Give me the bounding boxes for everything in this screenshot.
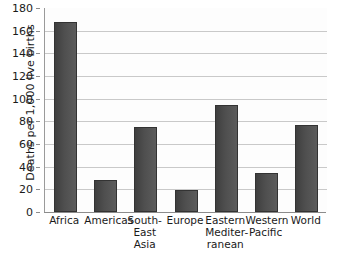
bar [94,180,117,212]
y-tick-label: 120 [12,70,33,83]
y-tick-label: 100 [12,92,33,105]
y-tick-mark [36,167,40,168]
y-tick-label: 180 [12,2,33,15]
y-tick-label: 0 [26,206,33,219]
y-tick-label: 160 [12,24,33,37]
x-tick-label: South- East Asia [125,215,165,250]
gridline [45,53,327,54]
y-tick-label: 80 [19,115,33,128]
y-tick-label: 60 [19,138,33,151]
bar [255,173,278,212]
y-axis-tick-labels: 020406080100120140160180 [14,0,40,261]
bar [215,105,238,212]
y-tick-label: 20 [19,183,33,196]
bar [175,190,198,212]
bar [54,22,77,212]
x-tick-label: Eastern Mediter- ranean [205,215,245,250]
gridline [45,31,327,32]
y-tick-mark [36,189,40,190]
y-tick-mark [36,53,40,54]
x-tick-label: Americas [84,215,124,227]
bar-chart: Deaths per 1,000 live births 02040608010… [0,0,339,261]
x-tick-label: Western Pacific [245,215,285,239]
bar [134,127,157,212]
y-tick-mark [36,212,40,213]
y-tick-label: 40 [19,160,33,173]
y-tick-mark [36,8,40,9]
y-tick-mark [36,31,40,32]
plot-area [44,8,327,212]
x-tick-label: Europe [165,215,205,227]
y-tick-mark [36,144,40,145]
y-tick-mark [36,99,40,100]
gridline [45,167,327,168]
x-axis-line [44,212,326,213]
x-tick-label: Africa [44,215,84,227]
gridline [45,121,327,122]
x-axis-tick-labels: AfricaAmericasSouth- East AsiaEuropeEast… [44,215,326,261]
gridline [45,76,327,77]
gridline [45,99,327,100]
y-tick-mark [36,76,40,77]
y-tick-mark [36,121,40,122]
bar [295,125,318,212]
gridline [45,144,327,145]
y-tick-label: 140 [12,47,33,60]
x-tick-label: World [286,215,326,227]
